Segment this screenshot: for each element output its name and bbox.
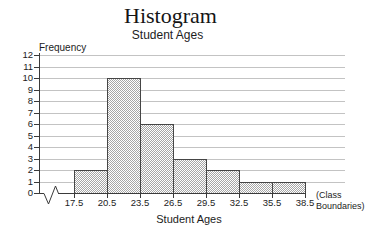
- class-boundaries-label: (Class Boundaries): [316, 190, 370, 212]
- x-axis-label: Student Ages: [146, 213, 232, 225]
- histogram-figure: Histogram Student Ages Frequency 0123456…: [0, 0, 383, 239]
